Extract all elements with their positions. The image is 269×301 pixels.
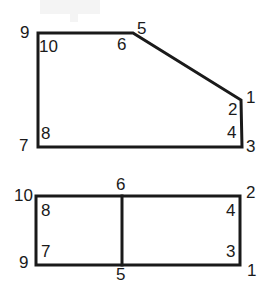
vertex-label-9: 9 (20, 24, 29, 41)
vertex-label-2: 2 (246, 184, 255, 201)
vertex-label-6: 6 (116, 176, 125, 193)
vertex-label-4: 4 (227, 124, 236, 141)
vertex-label-7: 7 (41, 243, 50, 260)
vertex-label-5: 5 (137, 20, 146, 37)
vertex-label-9: 9 (19, 254, 28, 271)
figure-canvas: 9 10 6 5 1 2 4 3 8 7 10 6 2 8 4 7 3 9 5 … (0, 0, 269, 301)
lower-rectangle (36, 196, 240, 265)
vertex-label-1: 1 (246, 89, 255, 106)
vertex-label-3: 3 (226, 243, 235, 260)
vertex-label-4: 4 (226, 202, 235, 219)
vertex-label-2: 2 (228, 101, 237, 118)
upper-polygon (38, 33, 242, 147)
vertex-label-5: 5 (116, 266, 125, 283)
vertex-label-10: 10 (14, 187, 33, 204)
vertex-label-7: 7 (19, 137, 28, 154)
vertex-label-8: 8 (41, 125, 50, 142)
vertex-label-10: 10 (39, 38, 58, 55)
vertex-label-3: 3 (246, 138, 255, 155)
vertex-label-6: 6 (117, 36, 126, 53)
vertex-label-1: 1 (247, 262, 256, 279)
vertex-label-8: 8 (41, 202, 50, 219)
